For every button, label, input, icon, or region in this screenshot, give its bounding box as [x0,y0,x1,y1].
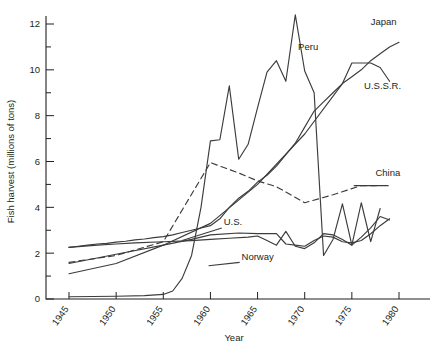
series-label-ussr: U.S.S.R. [364,80,401,91]
series-label-china: China [375,167,401,178]
x-tick-label-1980: 1980 [380,304,401,328]
series-label-norway: Norway [242,251,274,262]
series-group [69,15,399,297]
x-axis-title: Year [224,332,243,343]
x-tick-label-1950: 1950 [97,304,118,328]
series-label-peru: Peru [298,41,318,52]
y-tick-label-0: 0 [35,293,40,304]
x-tick-label-1965: 1965 [238,304,259,328]
series-label-us: U.S. [224,216,242,227]
y-tick-label-6: 6 [35,156,40,167]
axis-title-group: YearFish harvest (millions of tons) [5,100,244,343]
chart-canvas: 024681012 194519501955196019651970197519… [0,0,447,345]
x-tick-label-1970: 1970 [285,304,306,328]
x-tick-label-1945: 1945 [50,304,71,328]
y-tick-label-4: 4 [35,202,40,213]
y-axis-title: Fish harvest (millions of tons) [5,100,16,224]
series-label-group: JapanU.S.S.R.PeruChinaU.S.Norway [224,16,401,261]
x-tick-group: 19451950195519601965197019751980 [50,292,401,327]
fish-harvest-chart: 024681012 194519501955196019651970197519… [0,0,447,345]
y-tick-label-12: 12 [29,18,40,29]
leader-norway [209,262,240,265]
x-tick-label-1975: 1975 [332,304,353,328]
x-tick-label-1955: 1955 [144,304,165,328]
y-tick-group: 024681012 [29,18,54,304]
y-tick-label-2: 2 [35,248,40,259]
y-tick-label-8: 8 [35,110,40,121]
y-tick-label-10: 10 [29,64,40,75]
x-tick-label-1960: 1960 [191,304,212,328]
series-label-japan: Japan [371,16,397,27]
